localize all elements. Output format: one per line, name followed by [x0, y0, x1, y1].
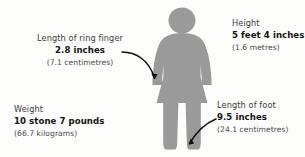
annotation-height-value: 5 feet 4 inches	[232, 30, 304, 42]
annotation-foot-value: 9.5 inches	[217, 112, 303, 124]
annotation-foot: Length of foot 9.5 inches (24.1 centimet…	[217, 100, 303, 135]
arrow-to-foot-icon	[189, 119, 216, 145]
annotation-height: Height 5 feet 4 inches (1.6 metres)	[232, 18, 304, 53]
annotation-weight-value: 10 stone 7 pounds	[14, 116, 106, 128]
annotation-height-label: Height	[232, 18, 304, 29]
annotation-weight-label: Weight	[14, 104, 106, 115]
annotation-ring-finger-value: 2.8 inches	[30, 45, 130, 57]
annotation-foot-label: Length of foot	[217, 100, 303, 111]
annotation-weight-metric: (66.7 kilograms)	[14, 128, 106, 139]
annotation-ring-finger: Length of ring finger 2.8 inches (7.1 ce…	[30, 33, 130, 68]
annotation-height-metric: (1.6 metres)	[232, 42, 304, 53]
annotation-ring-finger-metric: (7.1 centimetres)	[30, 57, 130, 68]
annotation-weight: Weight 10 stone 7 pounds (66.7 kilograms…	[14, 104, 106, 139]
infographic-canvas: Length of ring finger 2.8 inches (7.1 ce…	[0, 0, 305, 157]
annotation-foot-metric: (24.1 centimetres)	[217, 124, 303, 135]
annotation-ring-finger-label: Length of ring finger	[30, 33, 130, 44]
